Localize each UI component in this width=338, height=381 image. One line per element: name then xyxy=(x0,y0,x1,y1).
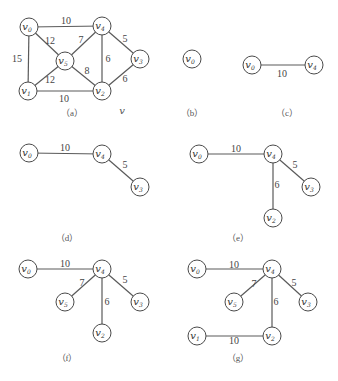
edge-weight-label: 7 xyxy=(252,278,257,289)
edge-weight-label: 6 xyxy=(123,73,128,84)
node-v0: v0 xyxy=(20,144,38,162)
edge-weight-label: 10 xyxy=(231,143,241,154)
panel-caption-b: （b） xyxy=(181,108,204,118)
edge-weight-label: 12 xyxy=(45,74,55,85)
panel-caption-g: （g） xyxy=(227,353,250,363)
node-v2: v2 xyxy=(264,209,282,227)
node-v1: v1 xyxy=(19,82,37,100)
node-v3: v3 xyxy=(131,178,149,196)
edge-weight-label: 5 xyxy=(293,159,298,170)
edge-v0-v4 xyxy=(29,26,102,27)
node-v4: v4 xyxy=(305,56,323,74)
node-v0: v0 xyxy=(190,145,208,163)
node-v5: v5 xyxy=(56,52,74,70)
panel-caption-a: （a） xyxy=(61,108,83,118)
edge-weight-label: 6 xyxy=(274,296,279,307)
node-v0: v0 xyxy=(188,260,206,278)
edge-weight-label: 5 xyxy=(292,277,297,288)
node-v4: v4 xyxy=(93,145,111,163)
edge-v0-v4 xyxy=(29,153,102,154)
edge-weight-label: 10 xyxy=(229,259,239,270)
node-v0: v0 xyxy=(243,56,261,74)
panel-caption-d: （d） xyxy=(56,233,79,243)
node-v1: v1 xyxy=(188,327,206,345)
prim-mst-figure: 101215756128610101051056107651076510 v0v… xyxy=(0,0,338,381)
panel-caption-c: （c） xyxy=(276,108,298,118)
edge-weight-label: 10 xyxy=(277,68,287,79)
edges-layer xyxy=(28,26,314,336)
edge-weight-label: 10 xyxy=(229,335,239,346)
edge-weight-label: 10 xyxy=(60,142,70,153)
node-v0: v0 xyxy=(20,18,38,36)
edge-weight-label: 10 xyxy=(61,15,71,26)
edge-weight-label: 6 xyxy=(105,296,110,307)
node-v3: v3 xyxy=(302,178,320,196)
edge-weight-label: 15 xyxy=(12,53,22,64)
panel-caption-e: （e） xyxy=(227,233,249,243)
node-v2: v2 xyxy=(263,327,281,345)
node-v5: v5 xyxy=(225,293,243,311)
node-v0: v0 xyxy=(19,260,37,278)
edge-weight-label: 5 xyxy=(123,274,128,285)
edge-weight-label: 6 xyxy=(106,53,111,64)
edge-weight-label: 12 xyxy=(45,35,55,46)
edge-v0-v1 xyxy=(28,27,29,91)
node-v3: v3 xyxy=(299,293,317,311)
edge-weight-label: 6 xyxy=(275,179,280,190)
edge-weight-label: 5 xyxy=(123,33,128,44)
edge-weight-label: 10 xyxy=(60,258,70,269)
edge-weight-label: 7 xyxy=(80,277,85,288)
node-v4: v4 xyxy=(264,145,282,163)
edge-weight-label: 8 xyxy=(85,65,90,76)
node-v4: v4 xyxy=(93,17,111,35)
node-v4: v4 xyxy=(93,260,111,278)
node-v3: v3 xyxy=(131,293,149,311)
node-v5: v5 xyxy=(56,293,74,311)
graph-name-label: v xyxy=(119,105,125,116)
node-v0: v0 xyxy=(183,50,201,68)
captions-layer: （a）（b）（c）（d）（e）（f）（g） xyxy=(56,108,298,363)
edge-weight-label: 5 xyxy=(123,159,128,170)
edge-weight-label: 10 xyxy=(59,93,69,104)
node-v2: v2 xyxy=(93,82,111,100)
panel-caption-f: （f） xyxy=(57,353,78,363)
node-v4: v4 xyxy=(263,260,281,278)
edge-weight-label: 7 xyxy=(79,34,84,45)
node-v2: v2 xyxy=(93,324,111,342)
node-v3: v3 xyxy=(131,50,149,68)
